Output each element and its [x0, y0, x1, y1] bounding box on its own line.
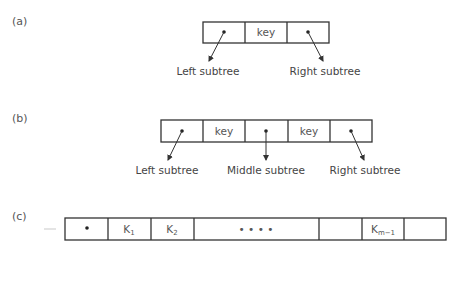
pointer-arrow: [168, 131, 182, 160]
pointer-arrow: [209, 32, 224, 61]
key-cell: key: [257, 26, 275, 38]
pointer-dot: [85, 226, 89, 230]
key-cell: key: [300, 125, 318, 137]
left-subtree-label: Left subtree: [176, 65, 239, 77]
tree-node-diagram: key Left subtree Right subtree key key L…: [0, 0, 458, 284]
pointer-arrow: [308, 32, 323, 61]
right-subtree-label: Right subtree: [330, 164, 401, 176]
middle-subtree-label: Middle subtree: [227, 164, 305, 176]
key-cell: key: [215, 125, 233, 137]
key-cell-k2: K2: [166, 223, 177, 237]
pointer-arrow: [351, 131, 364, 160]
left-subtree-label: Left subtree: [135, 164, 198, 176]
ellipsis-cell: • • • •: [239, 223, 274, 235]
key-cell-km-1: Km−1: [371, 223, 395, 237]
key-cell-k1: K1: [123, 223, 134, 237]
right-subtree-label: Right subtree: [290, 65, 361, 77]
